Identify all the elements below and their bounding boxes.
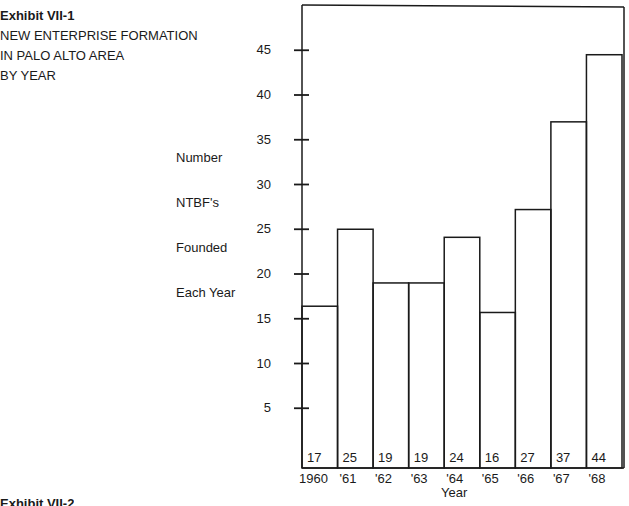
x-tick-label: '64 (446, 471, 463, 486)
bar (409, 283, 445, 468)
bar (444, 237, 480, 468)
chart-frame (302, 5, 624, 468)
bar-value-label: 27 (520, 450, 534, 465)
x-tick-label: '62 (375, 471, 392, 486)
bar-value-label: 25 (343, 450, 357, 465)
bar (515, 210, 551, 468)
bar-value-label: 16 (485, 450, 499, 465)
next-exhibit-heading: Exhibit VII-2 (0, 496, 74, 506)
bar-value-label: 17 (307, 450, 321, 465)
x-tick-label: '65 (482, 471, 499, 486)
bar (480, 312, 516, 468)
bar (373, 283, 409, 468)
x-tick-label: '66 (517, 471, 534, 486)
x-tick-label: 1960 (299, 471, 328, 486)
bar-chart: 172519192416273744 (0, 0, 629, 506)
bar-value-label: 19 (378, 450, 392, 465)
bar (586, 55, 622, 468)
x-tick-label: '68 (588, 471, 605, 486)
x-tick-label: '63 (411, 471, 428, 486)
x-tick-label: '61 (340, 471, 357, 486)
bar (302, 306, 338, 468)
bar-value-label: 19 (414, 450, 428, 465)
bar-value-label: 24 (449, 450, 463, 465)
x-axis-title: Year (441, 485, 467, 500)
bar (551, 122, 587, 468)
bar-value-label: 44 (591, 450, 605, 465)
bar-value-label: 37 (556, 450, 570, 465)
bar (338, 229, 374, 468)
x-tick-label: '67 (553, 471, 570, 486)
bars: 172519192416273744 (302, 55, 622, 468)
